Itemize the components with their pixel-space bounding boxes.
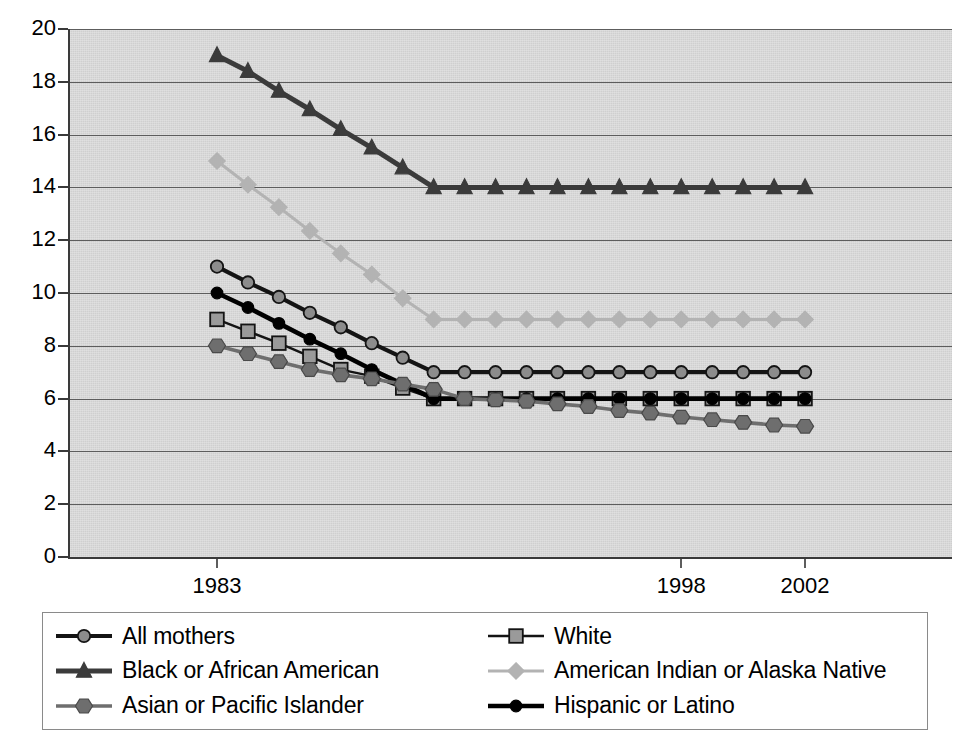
y-tick-label: 20 (0, 17, 56, 39)
data-point-marker (675, 393, 687, 405)
legend-item-asian-or-pacific-islander[interactable]: Asian or Pacific Islander (53, 688, 485, 723)
legend-item-black-or-african-american[interactable]: Black or African American (53, 654, 485, 689)
data-point-marker (75, 699, 92, 713)
legend-swatch-diamond-icon (485, 658, 547, 684)
data-point-marker (580, 400, 597, 414)
legend-item-all-mothers[interactable]: All mothers (53, 619, 485, 654)
legend-label: Black or African American (122, 657, 379, 684)
data-point-marker (456, 392, 473, 406)
x-tick-mark (804, 559, 806, 568)
data-point-marker (551, 366, 563, 378)
data-point-marker (458, 366, 470, 378)
y-tick-label: 8 (0, 334, 56, 356)
data-point-marker (645, 393, 657, 405)
data-point-marker (489, 366, 501, 378)
legend-swatch-hexagon-icon (53, 693, 115, 719)
data-point-marker (549, 397, 566, 411)
data-point-marker (735, 311, 752, 328)
data-point-marker (273, 291, 285, 303)
chart-legend: All mothersWhiteBlack or African America… (42, 612, 928, 730)
data-point-marker (209, 47, 224, 62)
y-tick-mark (58, 345, 68, 347)
legend-label: White (554, 623, 612, 650)
y-tick-label: 18 (0, 70, 56, 92)
data-point-marker (242, 302, 254, 314)
data-point-marker (613, 366, 625, 378)
y-tick-mark (58, 292, 68, 294)
y-tick-mark (58, 239, 68, 241)
data-point-marker (799, 366, 811, 378)
y-tick-mark (58, 186, 68, 188)
data-point-marker (706, 393, 718, 405)
data-point-marker (456, 311, 473, 328)
series-white (210, 313, 812, 406)
y-tick-label: 14 (0, 175, 56, 197)
data-point-marker (673, 410, 690, 424)
y-tick-mark (58, 28, 68, 30)
data-point-marker (737, 393, 749, 405)
data-point-marker (366, 337, 378, 349)
legend-swatch-triangle-icon (53, 658, 115, 684)
data-point-marker (78, 630, 90, 642)
data-point-marker (580, 311, 597, 328)
legend-item-hispanic-or-latino[interactable]: Hispanic or Latino (485, 688, 917, 723)
data-point-marker (394, 377, 411, 391)
data-point-marker (510, 700, 522, 712)
y-tick-mark (58, 134, 68, 136)
data-point-marker (487, 311, 504, 328)
data-point-marker (735, 416, 752, 430)
data-point-marker (704, 311, 721, 328)
legend-label: Asian or Pacific Islander (122, 692, 364, 719)
y-tick-label: 10 (0, 281, 56, 303)
data-point-marker (397, 351, 409, 363)
y-tick-mark (58, 503, 68, 505)
y-tick-label: 0 (0, 545, 56, 567)
y-tick-mark (58, 556, 68, 558)
y-tick-mark (58, 450, 68, 452)
legend-grid: All mothersWhiteBlack or African America… (43, 613, 927, 729)
x-tick-mark (216, 559, 218, 568)
y-tick-label: 6 (0, 387, 56, 409)
chart-page: 02468101214161820 198319982002 All mothe… (0, 0, 971, 740)
data-point-marker (737, 366, 749, 378)
data-point-marker (673, 311, 690, 328)
data-point-marker (582, 366, 594, 378)
data-point-marker (614, 393, 626, 405)
series-line (217, 55, 805, 187)
legend-label: All mothers (122, 623, 235, 650)
data-point-marker (211, 260, 223, 272)
data-point-marker (335, 348, 347, 360)
y-tick-label: 4 (0, 439, 56, 461)
data-point-marker (518, 311, 535, 328)
series-black-or-african-american (209, 47, 812, 194)
data-point-marker (642, 406, 659, 420)
data-point-marker (487, 393, 504, 407)
data-point-marker (675, 366, 687, 378)
data-point-marker (549, 311, 566, 328)
legend-item-white[interactable]: White (485, 619, 917, 654)
legend-item-american-indian-or-alaska-native[interactable]: American Indian or Alaska Native (485, 654, 917, 689)
data-point-marker (208, 339, 225, 353)
data-point-marker (520, 366, 532, 378)
series-line (217, 161, 805, 319)
legend-swatch-circle-icon (53, 623, 115, 649)
data-point-marker (304, 307, 316, 319)
data-point-marker (799, 393, 811, 405)
data-point-marker (611, 311, 628, 328)
x-tick-label: 1998 (657, 573, 706, 599)
y-tick-label: 2 (0, 492, 56, 514)
data-point-marker (797, 311, 814, 328)
data-point-marker (304, 333, 316, 345)
series-canvas (68, 29, 950, 557)
data-point-marker (270, 355, 287, 369)
x-tick-label: 2002 (781, 573, 830, 599)
data-point-marker (768, 366, 780, 378)
data-point-marker (611, 404, 628, 418)
series-american-indian-or-alaska-native (209, 153, 814, 328)
data-point-marker (766, 311, 783, 328)
legend-label: Hispanic or Latino (554, 692, 735, 719)
y-tick-label: 16 (0, 123, 56, 145)
data-point-marker (273, 318, 285, 330)
data-point-marker (363, 372, 380, 386)
y-tick-label: 12 (0, 228, 56, 250)
